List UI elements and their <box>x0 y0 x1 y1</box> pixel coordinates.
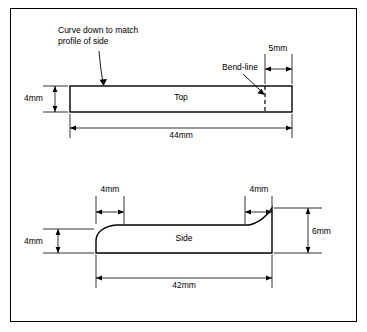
dim-label-side-length: 42mm <box>159 280 209 291</box>
top-view-label: Top <box>156 92 206 103</box>
dim-label-top-length: 44mm <box>156 130 206 141</box>
dim-label-top-height: 4mm <box>24 93 43 104</box>
side-view-label: Side <box>159 233 209 244</box>
curve-note-leader <box>99 51 107 86</box>
dim-side-left-height <box>43 229 94 253</box>
curve-note-text: Curve down to match profile of side <box>58 25 138 47</box>
dim-bend-offset <box>265 54 292 84</box>
dim-label-side-right-height: 6mm <box>312 226 331 237</box>
dim-label-side-left-height: 4mm <box>24 236 43 247</box>
diagram-canvas: Curve down to match profile of side Bend… <box>0 0 367 332</box>
dim-label-side-right-flat: 4mm <box>234 184 284 195</box>
dim-label-bend-offset: 5mm <box>253 43 303 54</box>
dim-side-left-flat <box>96 196 124 224</box>
dim-top-height <box>43 86 68 112</box>
dim-label-side-left-flat: 4mm <box>85 184 135 195</box>
bend-line-note-text: Bend-line <box>222 62 258 73</box>
side-view-shape <box>96 208 272 253</box>
